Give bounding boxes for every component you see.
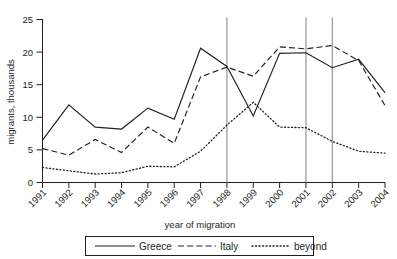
x-tick-label: 2002 <box>315 187 338 210</box>
legend-label-greece: Greece <box>139 241 172 252</box>
y-tick-label: 20 <box>22 47 33 58</box>
x-axis-tick-labels: 1991199219931994199519961997199819992000… <box>26 187 391 210</box>
chart-figure: migrants, thousands 0510152025 199119921… <box>0 0 397 259</box>
y-tick-label: 5 <box>28 144 33 155</box>
x-tick-label: 2003 <box>342 187 365 210</box>
chart-legend: GreeceItalybeyond <box>86 237 327 256</box>
x-tick-label: 1996 <box>157 187 180 210</box>
legend-label-italy: Italy <box>220 241 238 252</box>
series-line-beyond <box>43 102 386 174</box>
series-line-greece <box>43 48 386 140</box>
x-tick-label: 1997 <box>184 187 207 210</box>
x-tick-label: 2000 <box>263 187 286 210</box>
legend-label-beyond: beyond <box>294 241 327 252</box>
y-tick-label: 25 <box>22 14 33 25</box>
y-axis-label: migrants, thousands <box>5 59 16 145</box>
y-axis-tick-marks <box>37 20 43 183</box>
x-tick-label: 1994 <box>105 187 128 210</box>
x-tick-label: 1995 <box>131 187 154 210</box>
x-tick-label: 1992 <box>52 187 75 210</box>
x-axis-tick-marks <box>43 183 386 189</box>
x-tick-label: 1998 <box>210 187 233 210</box>
y-tick-label: 15 <box>22 79 33 90</box>
line-chart-plot: migrants, thousands 0510152025 199119921… <box>0 0 397 259</box>
x-tick-label: 1999 <box>236 187 259 210</box>
x-tick-label: 1993 <box>78 187 101 210</box>
x-tick-label: 2004 <box>368 187 391 210</box>
data-series-group <box>43 46 386 174</box>
vertical-reference-lines <box>227 18 332 183</box>
y-tick-label: 10 <box>22 112 33 123</box>
y-axis-tick-labels: 0510152025 <box>22 14 33 188</box>
y-tick-label: 0 <box>28 177 33 188</box>
x-axis-label: year of migration <box>165 219 236 230</box>
x-tick-label: 1991 <box>26 187 49 210</box>
x-tick-label: 2001 <box>289 187 312 210</box>
